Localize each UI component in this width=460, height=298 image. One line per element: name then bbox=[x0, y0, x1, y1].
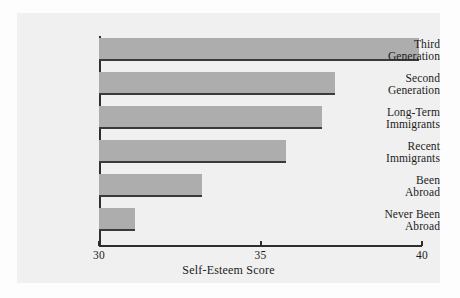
category-label: Never BeenAbroad bbox=[362, 209, 440, 233]
category-label-line1: Been bbox=[416, 174, 440, 186]
category-label-line1: Long-Term bbox=[387, 106, 440, 118]
category-label-line1: Never Been bbox=[384, 208, 440, 220]
category-label-line2: Abroad bbox=[362, 221, 440, 233]
category-label-line1: Second bbox=[406, 72, 440, 84]
category-label-line2: Generation bbox=[362, 85, 440, 97]
category-label-line1: Third bbox=[414, 38, 440, 50]
category-label-line2: Immigrants bbox=[362, 153, 440, 165]
category-label-line2: Generation bbox=[362, 51, 440, 63]
chart-screenshot: 303540 ThirdGenerationSecondGenerationLo… bbox=[0, 0, 460, 298]
category-labels-layer: ThirdGenerationSecondGenerationLong-Term… bbox=[17, 13, 440, 283]
x-axis-title: Self-Esteem Score bbox=[17, 263, 440, 278]
category-label: Long-TermImmigrants bbox=[362, 107, 440, 131]
category-label-line1: Recent bbox=[407, 140, 440, 152]
category-label: BeenAbroad bbox=[362, 175, 440, 199]
category-label-line2: Abroad bbox=[362, 187, 440, 199]
category-label-line2: Immigrants bbox=[362, 119, 440, 131]
figure-panel: 303540 ThirdGenerationSecondGenerationLo… bbox=[17, 13, 440, 283]
category-label: SecondGeneration bbox=[362, 73, 440, 97]
category-label: ThirdGeneration bbox=[362, 39, 440, 63]
plot-area: 303540 ThirdGenerationSecondGenerationLo… bbox=[17, 13, 440, 283]
category-label: RecentImmigrants bbox=[362, 141, 440, 165]
